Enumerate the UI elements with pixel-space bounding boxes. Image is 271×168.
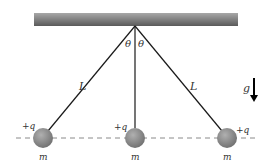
charge-center-label: +q bbox=[114, 122, 128, 132]
string-left bbox=[48, 26, 135, 131]
ceiling bbox=[34, 13, 238, 26]
theta-left-label: θ bbox=[125, 38, 131, 49]
mass-left-label: m bbox=[39, 152, 48, 162]
theta-right-label: θ bbox=[138, 38, 144, 49]
string-right bbox=[135, 26, 222, 131]
charge-right-label: +q bbox=[236, 125, 250, 135]
ball-center bbox=[125, 128, 145, 148]
gravity-arrow-icon bbox=[250, 95, 258, 102]
mass-right-label: m bbox=[223, 152, 232, 162]
mass-center-label: m bbox=[131, 152, 140, 162]
ball-right bbox=[217, 128, 237, 148]
length-left-label: L bbox=[78, 80, 86, 93]
length-right-label: L bbox=[189, 80, 197, 93]
gravity-label: g bbox=[243, 82, 250, 95]
pendulum-diagram: θ θ L L g +q +q +q m m m bbox=[0, 0, 271, 168]
charge-left-label: +q bbox=[22, 121, 36, 131]
ball-left bbox=[33, 128, 53, 148]
